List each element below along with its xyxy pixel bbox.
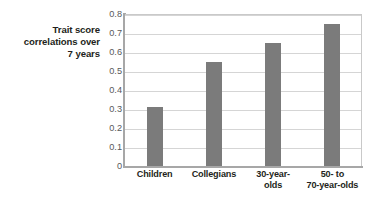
- bar-slot: [184, 15, 243, 166]
- bar[interactable]: [324, 24, 340, 167]
- bar-series: [125, 15, 361, 166]
- plot-area: [125, 14, 362, 166]
- bar[interactable]: [206, 62, 222, 166]
- y-tick-label: 0.8: [100, 9, 122, 19]
- bar[interactable]: [265, 43, 281, 167]
- x-category-label-line: 50- to: [296, 169, 368, 180]
- y-tick-label: 0.3: [100, 104, 122, 114]
- y-tick-label: 0.5: [100, 66, 122, 76]
- y-tick-label: 0.1: [100, 142, 122, 152]
- x-category-label-line: 70-year-olds: [296, 180, 368, 191]
- y-axis-title-line-2: correlations over: [8, 36, 100, 48]
- bar-slot: [303, 15, 362, 166]
- bar-slot: [244, 15, 303, 166]
- y-tick-label: 0.2: [100, 123, 122, 133]
- y-tick-label: 0.4: [100, 85, 122, 95]
- y-axis-title-line-1: Trait score: [8, 24, 100, 36]
- y-axis-title-line-3: 7 years: [8, 48, 100, 60]
- bar[interactable]: [147, 107, 163, 166]
- y-tick-label: 0.7: [100, 28, 122, 38]
- x-category-label: 50- to70-year-olds: [296, 169, 368, 191]
- y-axis-tick-labels: 0.80.70.60.50.40.30.20.10: [100, 0, 122, 197]
- bar-chart-figure: Trait score correlations over 7 years 0.…: [0, 0, 373, 197]
- y-tick-label: 0.6: [100, 47, 122, 57]
- x-axis-category-labels: ChildrenCollegians30-year-olds50- to70-y…: [125, 169, 362, 197]
- y-axis-title: Trait score correlations over 7 years: [8, 24, 100, 61]
- bar-slot: [125, 15, 184, 166]
